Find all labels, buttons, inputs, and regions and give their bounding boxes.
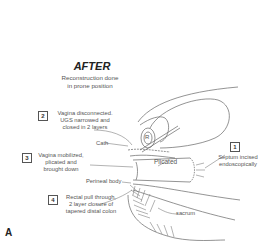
cath-label: Cath: [96, 140, 108, 147]
step-1-line1: Septum incised: [210, 154, 266, 161]
panel-label: A: [5, 227, 12, 238]
sacrum-label: sacrum: [176, 210, 195, 217]
step-1-badge: 1: [230, 142, 240, 152]
step-3-line2: plicated and: [30, 159, 92, 166]
r-marker: R: [145, 134, 149, 141]
figure-title: AFTER: [62, 60, 122, 72]
step-3-line1: Vagina mobilized,: [30, 152, 92, 159]
step-4-line2: 2 layer closure of: [56, 201, 126, 208]
figure-subtitle-line1: Reconstruction done: [45, 74, 135, 82]
step-2-badge: 2: [38, 111, 48, 121]
step-2-line2: UGS narrowed and: [52, 117, 118, 124]
step-1-label: Septum incised endoscopically: [210, 154, 266, 168]
step-4-line3: tapered distal colon: [56, 208, 126, 215]
figure-subtitle-line2: in prone position: [45, 82, 135, 90]
step-2-label: Vagina disconnected. UGS narrowed and cl…: [52, 110, 118, 131]
plicated-label: Plicated: [154, 158, 177, 165]
step-3-line3: brought down: [30, 166, 92, 173]
step-2-line3: closed in 2 layers: [52, 124, 118, 131]
step-4-label: Rectal pull through, 2 layer closure of …: [56, 194, 126, 215]
anatomy-drawing: [0, 0, 268, 245]
step-2-line1: Vagina disconnected.: [52, 110, 118, 117]
perineal-body-label: Perineal body: [86, 178, 121, 185]
step-4-line1: Rectal pull through,: [56, 194, 126, 201]
step-1-line2: endoscopically: [210, 161, 266, 168]
step-3-label: Vagina mobilized, plicated and brought d…: [30, 152, 92, 173]
